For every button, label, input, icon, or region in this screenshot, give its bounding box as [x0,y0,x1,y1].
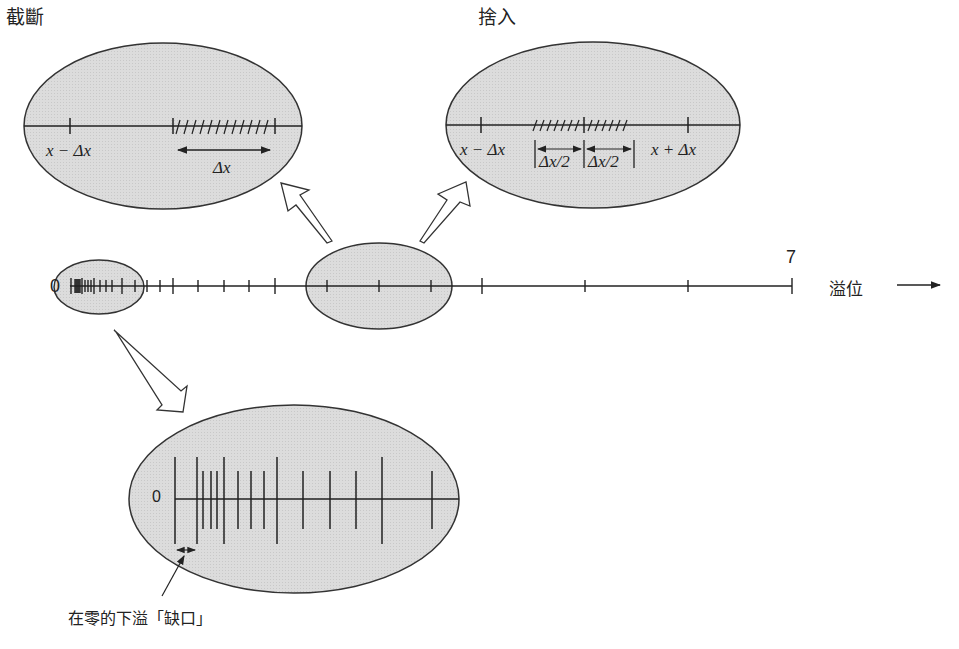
rounding-title: 捨入 [478,2,516,29]
zoom-arrow-rounding [420,182,470,243]
overflow-label: 溢位 [829,275,863,300]
floating-point-diagram: 截斷 捨入 x − Δx Δx x − Δx Δx/2 Δx/2 x + Δx … [0,0,959,649]
underflow-gap-caption: 在零的下溢「缺口」 [68,605,212,629]
rounding-zoom-ellipse [446,42,740,208]
truncation-title: 截斷 [6,2,44,29]
zero-zoom-ellipse [129,405,459,596]
zoom-zero-label: 0 [152,488,161,506]
truncation-zoom-ellipse [24,43,302,209]
main-number-axis [54,243,940,329]
axis-max-label: 7 [786,247,796,268]
rounding-half-right-label: Δx/2 [588,152,619,172]
axis-zero-label: 0 [50,276,60,297]
zoom-arrow-zero [114,330,187,412]
rounding-left-label: x − Δx [460,140,505,160]
truncation-left-label: x − Δx [46,141,91,161]
rounding-half-left-label: Δx/2 [539,152,570,172]
zoom-arrow-truncation [281,183,332,243]
rounding-right-label: x + Δx [651,140,696,160]
truncation-interval-label: Δx [213,158,231,178]
